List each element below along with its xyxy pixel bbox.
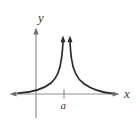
y-axis-up-arrow-icon <box>33 28 38 35</box>
x-axis-left-arrow-icon <box>10 91 17 96</box>
curve-left-branch-arrow-icon <box>61 36 66 43</box>
curve-right-branch-arrow-icon <box>68 36 73 43</box>
asymptote-label: a <box>61 99 67 111</box>
graph-figure: y x a <box>0 0 136 128</box>
x-axis-right-arrow-icon <box>113 91 120 96</box>
y-axis-label: y <box>36 10 44 25</box>
x-axis-label: x <box>123 86 130 101</box>
curve-right-branch <box>70 41 112 94</box>
graph-canvas: y x a <box>0 0 136 128</box>
curve-left-branch <box>18 41 63 94</box>
